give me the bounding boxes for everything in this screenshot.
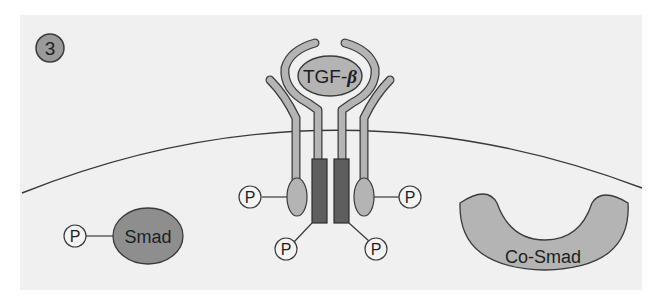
phosphate-right-oval: P	[399, 186, 421, 208]
beta-symbol: β	[346, 66, 357, 87]
svg-text:TGF-β: TGF-β	[303, 66, 357, 87]
phosphate-left-kinase: P	[275, 238, 297, 260]
svg-text:P: P	[405, 189, 416, 206]
step-badge: 3	[36, 34, 64, 62]
phosphate-left-oval: P	[239, 186, 261, 208]
ligand-label: TGF-	[303, 66, 347, 87]
tgf-beta-ligand: TGF-β	[298, 56, 362, 96]
svg-text:P: P	[70, 228, 81, 245]
receptor-oval-left	[287, 178, 307, 216]
phosphate-right-kinase: P	[365, 238, 387, 260]
svg-text:P: P	[245, 189, 256, 206]
svg-text:P: P	[281, 241, 292, 258]
svg-text:P: P	[371, 241, 382, 258]
receptor-oval-right	[354, 178, 374, 216]
kinase-domain-left	[312, 159, 327, 223]
co-smad-label: Co-Smad	[505, 247, 581, 267]
kinase-domain-right	[334, 159, 349, 223]
smad-label: Smad	[124, 227, 171, 247]
signaling-diagram: 3 TGF-β P	[0, 0, 659, 299]
step-number: 3	[45, 38, 56, 59]
